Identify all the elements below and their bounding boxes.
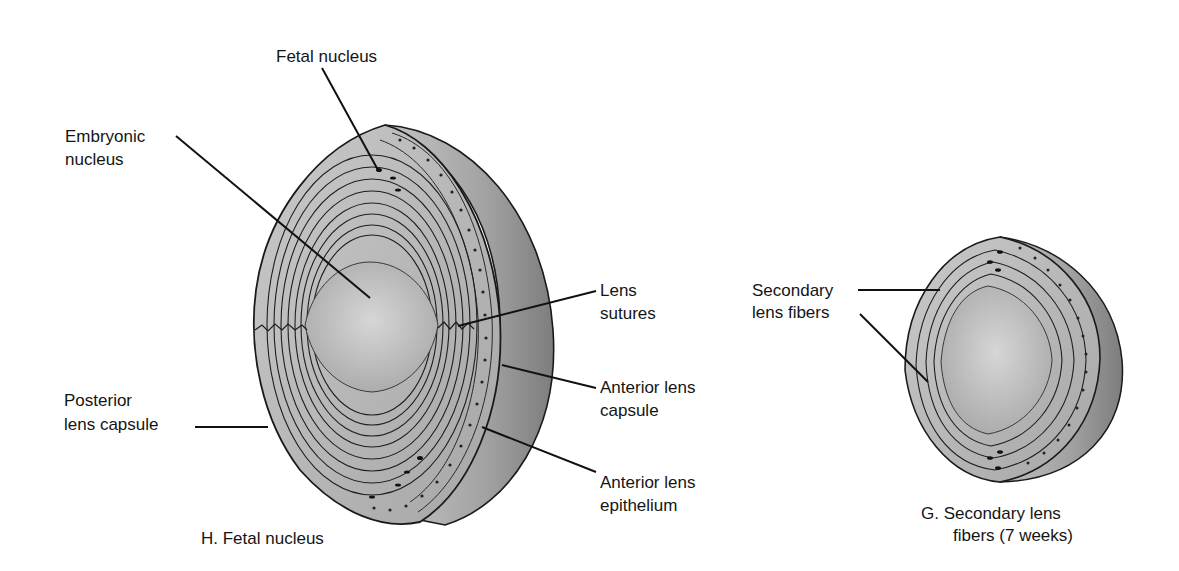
- label-secondary-fibers-line2: lens fibers: [752, 302, 829, 324]
- label-anterior-epithelium-line2: epithelium: [600, 495, 678, 517]
- label-anterior-capsule-line2: capsule: [600, 400, 659, 422]
- label-embryonic-nucleus-line2: nucleus: [65, 149, 124, 171]
- caption-panel-g-line2: fibers (7 weeks): [953, 525, 1073, 547]
- label-embryonic-nucleus-line1: Embryonic: [65, 126, 145, 148]
- caption-panel-g-line1: G. Secondary lens: [921, 503, 1061, 525]
- fetal-lens-diagram: [254, 125, 554, 525]
- label-anterior-epithelium-line1: Anterior lens: [600, 472, 695, 494]
- label-posterior-capsule-line2: lens capsule: [64, 414, 159, 436]
- label-lens-sutures-line1: Lens: [600, 280, 637, 302]
- label-secondary-fibers-line1: Secondary: [752, 280, 833, 302]
- label-fetal-nucleus: Fetal nucleus: [276, 46, 377, 68]
- lens-development-figure: Fetal nucleus Embryonic nucleus Lens sut…: [0, 0, 1179, 571]
- label-anterior-capsule-line1: Anterior lens: [600, 377, 695, 399]
- secondary-fiber-diagram: [905, 237, 1123, 482]
- lens-illustrations: [0, 0, 1179, 571]
- label-lens-sutures-line2: sutures: [600, 303, 656, 325]
- caption-panel-h: H. Fetal nucleus: [201, 528, 324, 550]
- label-posterior-capsule-line1: Posterior: [64, 390, 132, 412]
